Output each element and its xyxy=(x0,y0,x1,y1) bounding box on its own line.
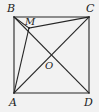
vertex-label-o: O xyxy=(45,60,53,71)
vertex-label-m: M xyxy=(25,16,35,27)
vertex-label-c: C xyxy=(86,3,94,14)
segment-MA xyxy=(14,28,29,93)
vertex-label-b: B xyxy=(7,3,15,14)
vertex-dot-m xyxy=(28,27,30,29)
vertex-label-a: A xyxy=(9,97,17,108)
vertex-label-d: D xyxy=(84,97,93,108)
geometry-figure: B C A D M O xyxy=(0,0,99,112)
